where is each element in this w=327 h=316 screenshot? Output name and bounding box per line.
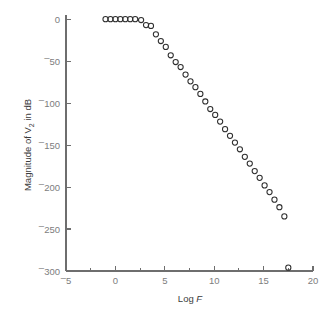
data-point: [252, 169, 257, 174]
data-point: [163, 44, 168, 49]
y-axis-title-suffix: in dB: [22, 99, 33, 123]
data-point: [208, 106, 213, 111]
data-point: [227, 133, 232, 138]
x-tick-label: 15: [258, 275, 269, 286]
data-point: [257, 175, 262, 180]
data-point: [277, 205, 282, 210]
tick-number: 150: [44, 140, 60, 151]
tick-number: 200: [44, 182, 60, 193]
x-axis-title-word: Log: [178, 293, 197, 304]
data-point: [282, 214, 287, 219]
axes: [66, 15, 313, 271]
y-axis-title-prefix: Magnitude of V: [22, 126, 33, 191]
y-tick-label: –50: [44, 52, 60, 67]
x-tick-label: 5: [162, 275, 167, 286]
x-axis-title-symbol: F: [196, 293, 203, 304]
data-point: [242, 154, 247, 159]
tick-number: 5: [66, 275, 71, 286]
data-point: [168, 53, 173, 58]
y-tick-label: –250: [39, 220, 60, 235]
data-point: [262, 183, 267, 188]
data-point: [183, 72, 188, 77]
data-point: [143, 22, 148, 27]
data-point: [232, 140, 237, 145]
tick-number: 100: [44, 98, 60, 109]
data-point: [153, 32, 158, 37]
tick-number: 300: [44, 266, 60, 277]
x-axis-title-text: Log F: [178, 293, 204, 304]
y-axis-major-ticks: [66, 19, 71, 271]
data-point: [193, 85, 198, 90]
y-tick-label: –100: [39, 94, 60, 109]
y-axis-title-text: Magnitude of V2 in dB: [22, 99, 35, 191]
data-point-markers: [103, 17, 291, 271]
data-point: [218, 119, 223, 124]
x-tick-label: –5: [61, 272, 72, 287]
x-tick-label: 0: [113, 275, 118, 286]
data-point: [148, 23, 153, 28]
chart-figure: –505101520 0–50–100–150–200–250–300 Log …: [0, 0, 327, 316]
data-point: [237, 147, 242, 152]
data-point: [158, 38, 163, 43]
tick-number: 250: [44, 224, 60, 235]
data-point: [178, 64, 183, 69]
y-tick-label: –150: [39, 136, 60, 151]
x-axis-title: Log F: [178, 293, 204, 304]
data-point: [188, 79, 193, 84]
data-point: [267, 190, 272, 195]
y-tick-label: –200: [39, 178, 60, 193]
data-point: [222, 127, 227, 132]
data-point: [272, 197, 277, 202]
data-point: [247, 161, 252, 166]
data-point: [203, 99, 208, 104]
x-tick-label: 20: [308, 275, 319, 286]
data-point: [138, 17, 143, 22]
y-axis-title: Magnitude of V2 in dB: [22, 99, 35, 191]
data-point: [213, 112, 218, 117]
data-point: [173, 59, 178, 64]
x-axis-tick-labels: –505101520: [61, 272, 319, 287]
x-tick-label: 10: [209, 275, 220, 286]
y-axis-tick-labels: 0–50–100–150–200–250–300: [39, 14, 60, 277]
tick-number: 50: [49, 56, 60, 67]
y-tick-label: –300: [39, 262, 60, 277]
bode-magnitude-plot: –505101520 0–50–100–150–200–250–300 Log …: [0, 0, 327, 316]
data-point: [198, 91, 203, 96]
y-tick-label: 0: [55, 14, 60, 25]
